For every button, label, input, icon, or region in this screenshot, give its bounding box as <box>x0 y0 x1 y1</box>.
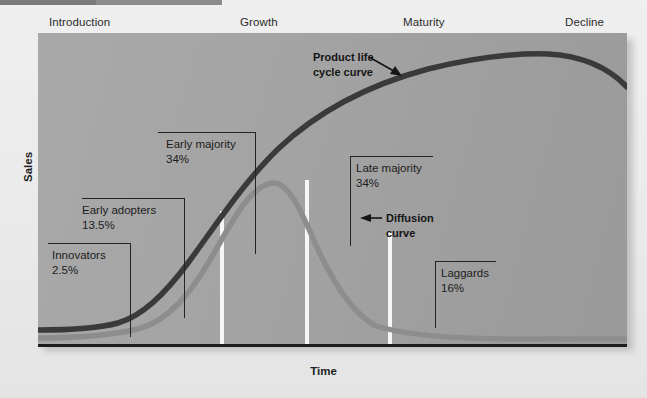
pct-late-majority: 34% <box>356 176 422 191</box>
callout-stem-late-majority <box>350 156 351 246</box>
callout-rule-early-majority <box>158 132 256 133</box>
label-early-adopters: Early adopters <box>82 204 156 216</box>
plot-area: Innovators 2.5% Early adopters 13.5% Ear… <box>38 33 627 345</box>
callout-stem-innovators <box>130 243 131 337</box>
callout-rule-laggards <box>435 261 496 262</box>
stage-label-introduction: Introduction <box>49 16 110 28</box>
stage-label-growth: Growth <box>240 16 278 28</box>
divider-late-majority-laggards <box>388 232 392 345</box>
divider-early-adopters-majority <box>305 180 309 345</box>
annotation-diffusion-curve: Diffusion curve <box>386 211 434 241</box>
x-axis-line <box>38 344 627 347</box>
callout-text-laggards: Laggards 16% <box>441 266 489 296</box>
annotation-plc-line1: Product life <box>313 51 374 63</box>
callout-text-late-majority: Late majority 34% <box>356 161 422 191</box>
callout-rule-early-adopters <box>82 198 185 199</box>
annotation-product-life-cycle-curve: Product life cycle curve <box>313 50 374 80</box>
callout-text-early-adopters: Early adopters 13.5% <box>82 203 156 233</box>
annotation-plc-line2: cycle curve <box>313 66 373 78</box>
callout-stem-early-majority <box>255 132 256 254</box>
label-early-majority: Early majority <box>166 138 236 150</box>
figure-root: Introduction Growth Maturity Decline <box>0 0 647 398</box>
callout-rule-innovators <box>48 243 131 244</box>
stage-label-maturity: Maturity <box>403 16 445 28</box>
product-life-cycle-curve-path <box>38 54 627 330</box>
callout-text-innovators: Innovators 2.5% <box>52 248 106 278</box>
callout-stem-laggards <box>435 261 436 328</box>
product-life-cycle-arrow <box>369 57 402 76</box>
pct-laggards: 16% <box>441 281 489 296</box>
x-axis-title: Time <box>0 365 647 377</box>
annotation-diffusion-line2: curve <box>386 227 415 239</box>
divider-innovators-early-adopters <box>220 211 224 345</box>
diffusion-curve-arrow <box>360 214 382 222</box>
pct-early-majority: 34% <box>166 152 236 167</box>
page-top-strip-dark <box>0 0 96 5</box>
callout-rule-late-majority <box>350 156 433 157</box>
pct-early-adopters: 13.5% <box>82 218 156 233</box>
y-axis-title: Sales <box>22 154 34 182</box>
stage-label-decline: Decline <box>565 16 604 28</box>
label-late-majority: Late majority <box>356 162 422 174</box>
label-laggards: Laggards <box>441 267 489 279</box>
callout-text-early-majority: Early majority 34% <box>166 137 236 167</box>
callout-stem-early-adopters <box>184 198 185 318</box>
label-innovators: Innovators <box>52 249 106 261</box>
pct-innovators: 2.5% <box>52 263 106 278</box>
annotation-diffusion-line1: Diffusion <box>386 212 434 224</box>
